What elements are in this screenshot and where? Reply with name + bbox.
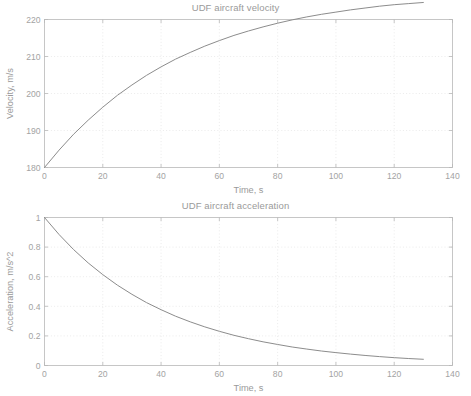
- y-axis-label: Acceleration, m/s^2: [5, 252, 15, 332]
- x-tick-label: 100: [329, 369, 344, 379]
- grid-lines: [45, 20, 453, 168]
- y-tick-label: 0.2: [29, 331, 41, 341]
- y-tick-label: 190: [26, 126, 41, 136]
- x-tick-label: 20: [98, 171, 108, 181]
- tick-group: 020406080100120140180190200210220: [26, 15, 460, 181]
- y-tick-label: 200: [26, 89, 41, 99]
- x-tick-label: 80: [273, 369, 283, 379]
- x-axis-label: Time, s: [234, 185, 264, 195]
- x-tick-label: 20: [98, 369, 108, 379]
- x-tick-label: 60: [215, 369, 225, 379]
- x-tick-label: 40: [156, 171, 166, 181]
- x-tick-label: 120: [387, 369, 402, 379]
- y-tick-label: 0.8: [29, 242, 41, 252]
- panel-acceleration: UDF aircraft acceleration 02040608010012…: [0, 198, 471, 396]
- velocity-plot: 020406080100120140180190200210220Time, s…: [0, 0, 471, 198]
- y-tick-label: 1: [36, 213, 41, 223]
- y-tick-label: 220: [26, 15, 41, 25]
- y-axis-label: Velocity, m/s: [5, 68, 15, 119]
- tick-group: 02040608010012014000.20.40.60.81: [29, 213, 460, 379]
- x-tick-label: 100: [329, 171, 344, 181]
- y-tick-label: 180: [26, 163, 41, 173]
- y-tick-label: 0.6: [29, 272, 41, 282]
- data-curve-velocity: [45, 2, 424, 167]
- x-tick-label: 120: [387, 171, 402, 181]
- figure-canvas: UDF aircraft velocity 020406080100120140…: [0, 0, 471, 396]
- y-tick-label: 0.4: [29, 302, 41, 312]
- grid-lines: [45, 218, 453, 366]
- x-axis-label: Time, s: [234, 383, 264, 393]
- x-tick-label: 0: [42, 369, 47, 379]
- plot-axis-box: [45, 218, 453, 366]
- data-curve-acceleration: [45, 218, 424, 360]
- x-tick-label: 0: [42, 171, 47, 181]
- x-tick-label: 60: [215, 171, 225, 181]
- x-tick-label: 140: [445, 369, 460, 379]
- x-tick-label: 140: [445, 171, 460, 181]
- x-tick-label: 80: [273, 171, 283, 181]
- acceleration-plot: 02040608010012014000.20.40.60.81Time, sA…: [0, 198, 471, 396]
- y-tick-label: 0: [36, 361, 41, 371]
- x-tick-label: 40: [156, 369, 166, 379]
- panel-velocity: UDF aircraft velocity 020406080100120140…: [0, 0, 471, 198]
- y-tick-label: 210: [26, 52, 41, 62]
